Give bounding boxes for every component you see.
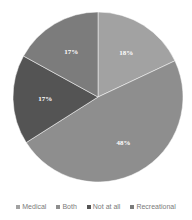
legend-swatch-not-at-all: [87, 205, 91, 209]
legend-item-not-at-all[interactable]: Not at all: [87, 203, 121, 210]
legend-item-medical[interactable]: Medical: [16, 203, 46, 210]
legend-swatch-medical: [16, 205, 20, 209]
data-label-not-at-all: 17%: [38, 95, 52, 103]
legend-label-not-at-all: Not at all: [93, 203, 121, 210]
legend-label-both: Both: [62, 203, 76, 210]
pie-chart: 18%48%17%17%: [0, 0, 192, 200]
data-label-recreational: 17%: [64, 48, 78, 56]
legend-item-both[interactable]: Both: [56, 203, 76, 210]
legend-swatch-recreational: [130, 205, 134, 209]
legend-swatch-both: [56, 205, 60, 209]
legend: Medical Both Not at all Recreational: [0, 203, 192, 210]
legend-label-recreational: Recreational: [136, 203, 175, 210]
legend-label-medical: Medical: [22, 203, 46, 210]
legend-item-recreational[interactable]: Recreational: [130, 203, 175, 210]
data-label-medical: 18%: [119, 49, 133, 57]
data-label-both: 48%: [116, 139, 130, 147]
